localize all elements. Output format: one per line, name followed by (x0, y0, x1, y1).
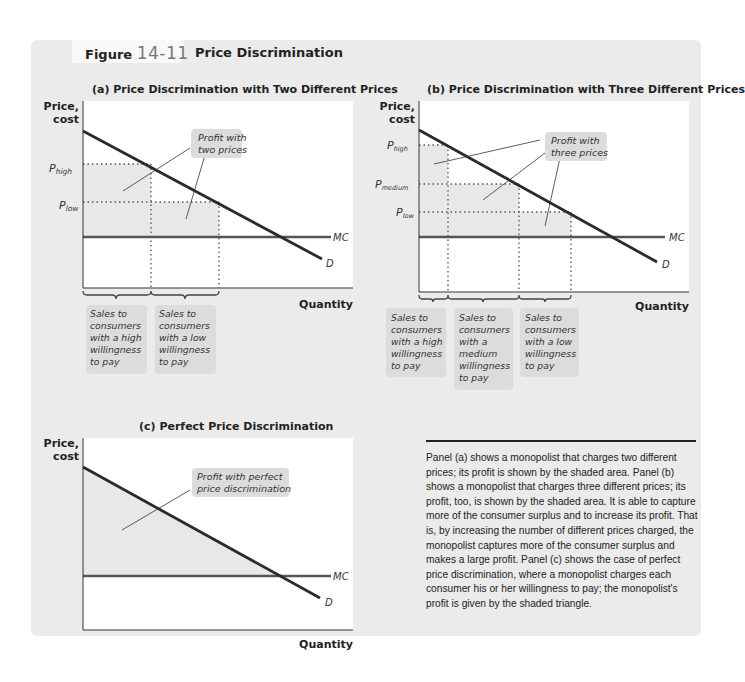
mc-label: MC (333, 571, 349, 582)
callout-c-line2: price discrimination (196, 483, 291, 494)
callout-c-line1: Profit with perfect (197, 471, 284, 482)
d-label: D (325, 597, 333, 608)
figure-description: Panel (a) shows a monopolist that charge… (426, 451, 702, 612)
description-rule (426, 440, 696, 442)
x-axis-label: Quantity (299, 638, 353, 651)
